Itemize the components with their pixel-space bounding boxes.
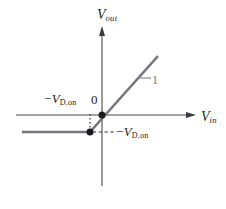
x-axis-label: Vin [201,110,217,125]
x-intercept-label: −VD,on [44,92,76,107]
origin-label: 0 [91,93,98,106]
x-intercept-subscript: D,on [60,98,77,107]
x-intercept-minus-sign: − [44,91,51,106]
plot-canvas [0,0,226,209]
y-axis-label: Vout [97,8,117,23]
y-intercept-var: V [124,124,132,139]
x-axis-label-var: V [201,109,210,124]
y-intercept-label: −VD,on [116,125,148,140]
curve-segment-unity-slope [90,56,158,132]
origin-point-dot [99,112,106,119]
slope-label: 1 [152,74,158,86]
x-intercept-var: V [52,91,60,106]
knee-point-dot [87,129,94,136]
transfer-curve-group [22,56,158,132]
y-axis-label-var: V [97,7,106,22]
y-intercept-subscript: D,on [132,131,149,140]
y-intercept-minus-sign: − [116,124,123,139]
x-axis-label-subscript: in [210,115,217,125]
transfer-characteristic-figure: Vout Vin 0 −VD,on −VD,on 1 [0,0,226,209]
y-axis-label-subscript: out [106,13,118,23]
y-axis-arrowhead [99,26,105,36]
axes-group [16,26,196,186]
x-axis-arrowhead [186,112,196,118]
